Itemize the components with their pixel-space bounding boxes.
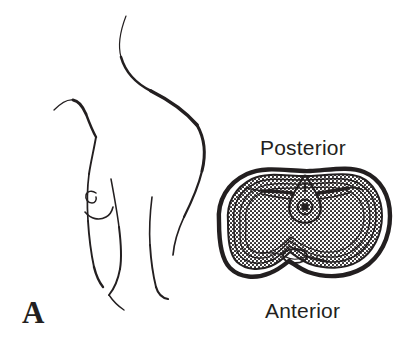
anatomical-figure-panel: Posterior Anterior A — [0, 0, 412, 354]
cross-section-layer — [0, 0, 412, 354]
panel-label-a: A — [22, 297, 44, 328]
anterior-label: Anterior — [265, 300, 340, 321]
posterior-label: Posterior — [260, 137, 346, 158]
left-transverse-process-icon — [262, 191, 292, 193]
spinal-canal-core-icon — [302, 204, 308, 210]
